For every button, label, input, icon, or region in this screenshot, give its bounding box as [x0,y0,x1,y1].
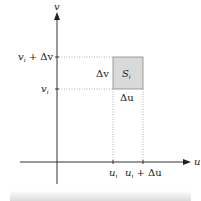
axes [20,18,184,184]
v-axis-label: v [54,1,60,12]
delta-v-label: Δv [96,68,109,79]
bottom-fade-bar [10,191,191,201]
delta-u-label: Δu [120,92,134,103]
tick-label-ui: ui [109,167,117,179]
tick-label-vi-plus-dv: vi + Δv [18,51,54,63]
u-axis-arrow-icon [183,159,191,165]
v-axis-arrow-icon [54,12,60,20]
u-axis-label: u [194,156,200,167]
tick-label-vi: vi [41,83,49,95]
uv-plane-diagram: v u vi + Δv vi ui ui + Δu Si Δv Δu [0,0,201,201]
tick-label-ui-plus-du: ui + Δu [125,167,162,179]
